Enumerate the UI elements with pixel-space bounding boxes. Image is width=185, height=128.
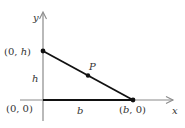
point-p	[86, 73, 90, 77]
point-top	[41, 49, 46, 54]
x-axis-label: x	[172, 105, 178, 116]
height-label: h	[32, 73, 38, 84]
point-base-label: (b, 0)	[119, 104, 146, 115]
y-axis-label: y	[32, 12, 39, 23]
origin-label: (0, 0)	[6, 103, 33, 114]
base-length-label: b	[77, 105, 83, 116]
point-base	[131, 98, 136, 103]
coordinate-diagram: y x (0, h) (0, 0) (b, 0) P h b	[0, 0, 185, 128]
point-p-label: P	[88, 61, 96, 72]
y-axis	[40, 12, 47, 121]
point-top-label: (0, h)	[4, 46, 31, 57]
